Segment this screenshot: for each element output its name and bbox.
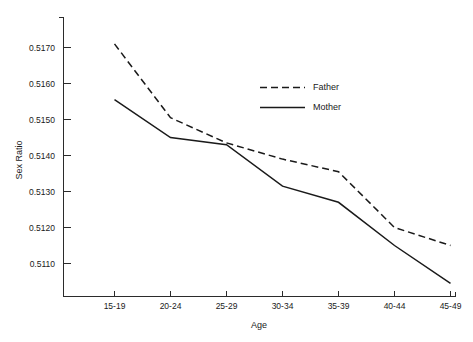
y-axis-ticks [64, 48, 71, 264]
x-tick-label: 40-44 [384, 301, 406, 311]
y-axis-title: Sex Ratio [14, 140, 24, 179]
x-axis-title: Age [251, 320, 267, 330]
x-tick-label: 25-29 [216, 301, 238, 311]
y-axis-line [59, 18, 64, 297]
y-tick-label: 0.5130 [29, 187, 55, 197]
series-line-father [115, 44, 451, 246]
legend-label-mother: Mother [313, 102, 341, 112]
y-tick-label: 0.5140 [29, 151, 55, 161]
x-axis-tick-labels: 15-19 20-24 25-29 30-34 35-39 40-44 45-4… [104, 301, 462, 311]
chart-legend: Father Mother [260, 82, 341, 112]
x-axis-ticks [115, 291, 451, 297]
y-tick-label: 0.5110 [30, 259, 56, 269]
x-tick-label: 35-39 [328, 301, 350, 311]
x-tick-label: 15-19 [104, 301, 126, 311]
y-tick-label: 0.5150 [29, 115, 55, 125]
legend-label-father: Father [313, 82, 339, 92]
x-tick-label: 30-34 [272, 301, 294, 311]
line-chart: 0.5170 0.5160 0.5150 0.5140 0.5130 0.512… [0, 0, 473, 342]
chart-series-group [115, 44, 451, 283]
y-tick-label: 0.5170 [29, 43, 55, 53]
chart-figure: 0.5170 0.5160 0.5150 0.5140 0.5130 0.512… [0, 0, 473, 342]
chart-axes [59, 18, 456, 297]
y-axis-tick-labels: 0.5170 0.5160 0.5150 0.5140 0.5130 0.512… [29, 43, 55, 269]
x-axis-line [64, 292, 456, 297]
y-tick-label: 0.5160 [29, 79, 55, 89]
series-line-mother [115, 100, 451, 284]
y-tick-label: 0.5120 [29, 223, 55, 233]
x-tick-label: 20-24 [160, 301, 182, 311]
x-tick-label: 45-49 [440, 301, 462, 311]
